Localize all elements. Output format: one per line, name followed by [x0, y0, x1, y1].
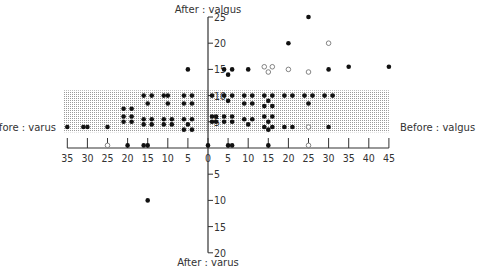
filled-data-point: [141, 117, 146, 122]
filled-data-point: [246, 67, 251, 72]
filled-data-point: [310, 93, 315, 98]
filled-data-point: [266, 120, 271, 125]
filled-data-point: [226, 72, 231, 77]
filled-data-point: [145, 101, 150, 106]
filled-data-point: [81, 125, 86, 130]
x-tick-label: 35: [343, 152, 355, 164]
filled-data-point: [306, 15, 311, 20]
x-tick-label: 30: [81, 152, 93, 164]
filled-data-point: [326, 125, 331, 130]
filled-data-point: [214, 120, 219, 125]
filled-data-point: [170, 122, 175, 127]
filled-data-point: [129, 120, 134, 125]
x-tick-label: 10: [162, 152, 174, 164]
filled-data-point: [121, 114, 126, 119]
filled-data-point: [190, 101, 195, 106]
filled-data-point: [230, 93, 235, 98]
filled-data-point: [222, 67, 227, 72]
y-tick-label: 10: [214, 194, 226, 206]
y-axis-title-positive: After : valgus: [175, 4, 241, 15]
filled-data-point: [270, 93, 275, 98]
filled-data-point: [125, 143, 130, 148]
filled-data-point: [166, 101, 171, 106]
filled-data-point: [266, 143, 271, 148]
x-tick-label: 15: [262, 152, 274, 164]
filled-data-point: [186, 122, 191, 127]
filled-data-point: [250, 101, 255, 106]
y-tick-label: 15: [214, 221, 226, 233]
open-data-point: [306, 125, 311, 130]
filled-data-point: [262, 114, 267, 119]
filled-data-point: [149, 93, 154, 98]
filled-data-point: [270, 125, 275, 130]
filled-data-point: [190, 127, 195, 132]
filled-data-point: [182, 101, 187, 106]
filled-data-point: [222, 120, 227, 125]
filled-data-point: [186, 67, 191, 72]
filled-data-point: [190, 93, 195, 98]
filled-data-point: [282, 93, 287, 98]
open-data-point: [266, 70, 271, 75]
filled-data-point: [210, 93, 215, 98]
filled-data-point: [326, 67, 331, 72]
filled-data-point: [161, 122, 166, 127]
filled-data-point: [230, 114, 235, 119]
filled-data-point: [262, 104, 267, 109]
filled-data-point: [85, 125, 90, 130]
filled-data-point: [206, 143, 211, 148]
filled-data-point: [270, 104, 275, 109]
open-data-point: [306, 143, 311, 148]
filled-data-point: [286, 41, 291, 46]
filled-data-point: [306, 101, 311, 106]
filled-data-point: [182, 127, 187, 132]
filled-data-point: [250, 93, 255, 98]
open-data-point: [306, 70, 311, 75]
x-axis-title-negative: Before : varus: [0, 122, 56, 133]
filled-data-point: [387, 64, 392, 69]
filled-data-point: [170, 117, 175, 122]
open-data-point: [105, 143, 110, 148]
filled-data-point: [65, 125, 70, 130]
x-tick-label: 15: [142, 152, 154, 164]
filled-data-point: [262, 93, 267, 98]
filled-data-point: [145, 143, 150, 148]
filled-data-point: [250, 117, 255, 122]
scatter-chart: 3530252015105051015202530354045252015105…: [0, 0, 488, 269]
x-tick-label: 35: [61, 152, 73, 164]
filled-data-point: [230, 143, 235, 148]
filled-data-point: [246, 122, 251, 127]
x-tick-label: 30: [323, 152, 335, 164]
filled-data-point: [230, 67, 235, 72]
filled-data-point: [222, 114, 227, 119]
y-axis-title-negative: After : varus: [177, 257, 238, 268]
filled-data-point: [230, 120, 235, 125]
y-tick-label: 20: [214, 37, 226, 49]
filled-data-point: [190, 117, 195, 122]
x-tick-label: 25: [302, 152, 314, 164]
open-data-point: [286, 67, 291, 72]
filled-data-point: [105, 125, 110, 130]
filled-data-point: [290, 93, 295, 98]
x-tick-label: 0: [205, 152, 211, 164]
filled-data-point: [145, 198, 150, 203]
x-tick-label: 5: [225, 152, 231, 164]
x-tick-label: 45: [383, 152, 395, 164]
filled-data-point: [121, 120, 126, 125]
filled-data-point: [166, 93, 171, 98]
open-data-point: [326, 41, 331, 46]
x-tick-label: 40: [363, 152, 375, 164]
x-tick-label: 20: [122, 152, 134, 164]
filled-data-point: [270, 114, 275, 119]
x-axis-title-positive: Before : valgus: [400, 122, 475, 133]
filled-data-point: [214, 114, 219, 119]
filled-data-point: [322, 93, 327, 98]
filled-data-point: [302, 93, 307, 98]
x-tick-label: 25: [101, 152, 113, 164]
filled-data-point: [226, 99, 231, 104]
filled-data-point: [282, 125, 287, 130]
ticks: 3530252015105051015202530354045252015105…: [61, 11, 395, 259]
filled-data-point: [141, 143, 146, 148]
filled-data-point: [290, 125, 295, 130]
filled-data-point: [149, 122, 154, 127]
axes: [67, 17, 389, 253]
